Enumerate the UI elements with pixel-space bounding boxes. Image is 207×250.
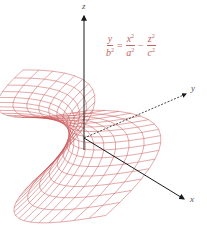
term2-numerator: z2 (147, 33, 156, 46)
saddle-equation: y b2 = x2 a2 − z2 c2 (106, 33, 156, 58)
equals-sign: = (117, 40, 123, 51)
z-axis-label: z (82, 2, 86, 11)
term2-denominator: c2 (147, 46, 154, 58)
term1-fraction: x2 a2 (126, 33, 135, 58)
y-axis-label: y (191, 84, 195, 93)
term1-numerator: x2 (126, 33, 135, 46)
term2-fraction: z2 c2 (147, 33, 156, 58)
surface-mesh (0, 70, 161, 223)
surface-plot (0, 0, 207, 250)
minus-sign: − (138, 40, 144, 51)
lhs-numerator: y (107, 34, 113, 46)
x-axis-label: x (190, 195, 194, 204)
lhs-fraction: y b2 (106, 34, 114, 58)
lhs-denominator: b2 (106, 46, 114, 58)
saddle-surface-diagram: z y x y b2 = x2 a2 − z2 c2 (0, 0, 207, 250)
term1-denominator: a2 (126, 46, 134, 58)
